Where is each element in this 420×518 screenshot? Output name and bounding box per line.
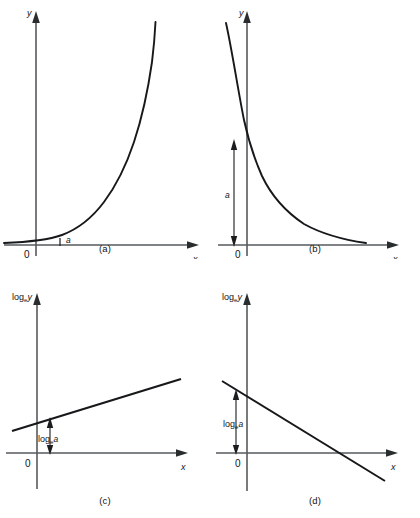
panel-a-plot: y x 0 a [0,0,210,259]
figure-sheet: y x 0 a (a) y x 0 a (b) [0,0,420,518]
y-axis-label: y [238,8,244,18]
exponential-growth-curve [4,22,156,243]
panel-d: logey x 0 logea (d) [210,259,420,518]
panel-b-caption: (b) [210,243,420,254]
panel-c-caption: (c) [0,495,210,506]
panel-d-plot: logey x 0 logea [210,259,420,518]
y-axis-arrowhead [32,11,40,23]
panel-a-caption: (a) [0,243,210,254]
panel-a: y x 0 a (a) [0,0,210,259]
y-axis-arrowhead [243,293,251,305]
x-axis-label: x [390,462,396,472]
loga-label: logea [38,434,58,445]
panel-d-caption: (d) [210,495,420,506]
y-axis-label: logey [222,292,242,303]
origin-label: 0 [235,458,241,469]
y-axis-arrowhead [243,11,251,23]
y-axis-label: y [26,8,32,18]
panel-b-plot: y x 0 a [210,0,420,259]
loga-label: logea [223,419,243,430]
origin-label: 0 [25,458,31,469]
x-axis-label: x [180,462,186,472]
panel-b: y x 0 a (b) [210,0,420,259]
x-axis-arrowhead [176,449,188,457]
x-axis-arrowhead [386,449,398,457]
panel-c-plot: logey x 0 logea [0,259,210,518]
panel-c: logey x 0 logea (c) [0,259,210,518]
a-label: a [225,190,230,200]
y-axis-label: logey [12,292,32,303]
y-axis-arrowhead [33,293,41,305]
a-measure-arrow-up [231,139,237,150]
